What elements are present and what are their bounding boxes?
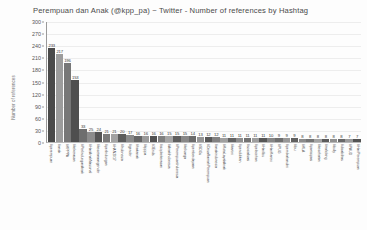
x-label-column: #ibu [291,144,299,228]
x-label-column: #anakindonesia [212,144,220,228]
bar[interactable]: 8 [299,139,306,142]
bar-column[interactable]: 9 [275,22,282,142]
bar-column[interactable]: 8 [314,22,321,142]
bar[interactable]: 21 [111,134,118,142]
bar[interactable]: 14 [189,136,196,142]
bar-column[interactable]: 24 [95,22,102,142]
bar-column[interactable]: 11 [236,22,243,142]
bar-column[interactable]: 11 [228,22,235,142]
bar-column[interactable]: 14 [189,22,196,142]
bar[interactable]: 11 [244,138,251,142]
bar[interactable]: 9 [275,138,282,142]
x-tick-label: #pemberdayaan [191,144,195,169]
x-label-column: #hakanak [134,144,142,228]
bar-column[interactable]: 15 [181,22,188,142]
x-tick-label: #AnakIndonesia [167,144,171,168]
x-tick-label: #pelecehan [254,144,258,162]
bar[interactable]: 15 [181,136,188,142]
bar[interactable]: 10 [267,138,274,142]
x-label-column: #PerlindunganAnak [79,144,87,228]
bar-value-label: 16 [158,131,165,136]
bar-column[interactable]: 12 [205,22,212,142]
bar[interactable]: 11 [252,138,259,142]
bar-column[interactable]: 10 [267,22,274,142]
bar[interactable]: 9 [283,138,290,142]
bar-column[interactable]: 16 [134,22,141,142]
y-tick-mark [42,94,44,95]
bar-value-label: 8 [314,134,321,139]
bar-column[interactable]: 11 [252,22,259,142]
bar[interactable]: 16 [158,136,165,142]
bar[interactable]: 9 [291,138,298,142]
bar[interactable]: 233 [48,48,55,142]
bar-column[interactable]: 8 [338,22,345,142]
bar[interactable]: 217 [56,54,63,142]
bar-column[interactable]: 9 [291,22,298,142]
bar[interactable]: 11 [236,138,243,142]
bar-column[interactable]: 13 [197,22,204,142]
bar[interactable]: 15 [165,136,172,142]
bar[interactable]: 153 [71,80,78,142]
bar-column[interactable]: 33 [79,22,86,142]
bar-column[interactable]: 11 [259,22,266,142]
y-tick-mark [42,34,44,35]
bar-column[interactable]: 153 [71,22,78,142]
bar-column[interactable]: 15 [173,22,180,142]
x-tick-label: #perempuan [49,144,53,163]
bar-column[interactable]: 11 [220,22,227,142]
bar-column[interactable]: 17 [126,22,133,142]
bar[interactable]: 8 [314,139,321,142]
bar-column[interactable]: 20 [118,22,125,142]
y-tick-label: 0 [38,140,41,146]
bar-column[interactable]: 16 [150,22,157,142]
bar[interactable]: 11 [259,138,266,142]
bar[interactable]: 16 [150,136,157,142]
bar-column[interactable]: 233 [48,22,55,142]
bar-column[interactable]: 7 [353,22,360,142]
bar-column[interactable]: 8 [322,22,329,142]
bar[interactable]: 11 [228,138,235,142]
bar[interactable]: 12 [205,137,212,142]
bar[interactable]: 8 [338,139,345,142]
bar[interactable]: 8 [330,139,337,142]
bar-column[interactable]: 25 [87,22,94,142]
bar-column[interactable]: 8 [299,22,306,142]
bar[interactable]: 196 [64,63,71,142]
x-label-column: #pernikahandini [283,144,291,228]
bar-column[interactable]: 9 [283,22,290,142]
bar[interactable]: 24 [95,132,102,142]
bar[interactable]: 16 [134,136,141,142]
bar[interactable]: 25 [87,132,94,142]
x-tick-label: #kpppa [143,144,147,155]
bar-column[interactable]: 15 [165,22,172,142]
bar-column[interactable]: 196 [64,22,71,142]
bar-column[interactable]: 7 [345,22,352,142]
bar[interactable]: 8 [306,139,313,142]
bar[interactable]: 7 [353,139,360,142]
bar[interactable]: 16 [142,136,149,142]
x-label-column: #keluarga [181,144,189,228]
bar-value-label: 8 [322,134,329,139]
y-tick-mark [42,118,44,119]
bar[interactable]: 15 [173,136,180,142]
bar-value-label: 17 [126,130,133,135]
bar[interactable]: 33 [79,129,86,142]
bar-column[interactable]: 12 [212,22,219,142]
bar[interactable]: 13 [197,137,204,142]
bar[interactable]: 21 [103,134,110,142]
bar-column[interactable]: 217 [56,22,63,142]
bar-column[interactable]: 11 [244,22,251,142]
bar-column[interactable]: 8 [306,22,313,142]
bar-column[interactable]: 21 [111,22,118,142]
bar-column[interactable]: 16 [158,22,165,142]
bar[interactable]: 8 [322,139,329,142]
bar-column[interactable]: 16 [142,22,149,142]
bar-column[interactable]: 21 [103,22,110,142]
x-label-column: #HAN2017 [110,144,118,228]
bar[interactable]: 17 [126,135,133,142]
bar[interactable]: 12 [212,137,219,142]
bar[interactable]: 20 [118,134,125,142]
bar-column[interactable]: 8 [330,22,337,142]
bar[interactable]: 11 [220,138,227,142]
bar[interactable]: 7 [345,139,352,142]
